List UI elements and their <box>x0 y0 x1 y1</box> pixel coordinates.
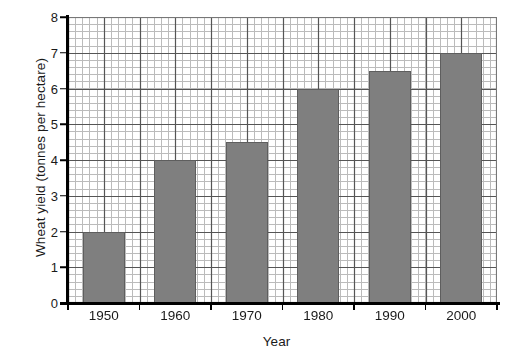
x-tick-label: 2000 <box>431 308 491 323</box>
x-tick-label: 1990 <box>360 308 420 323</box>
x-axis-title: Year <box>56 334 497 349</box>
y-tick-label: 4 <box>36 153 58 168</box>
x-tick-mark <box>353 303 355 310</box>
bar-1950 <box>83 232 125 304</box>
x-tick-label: 1980 <box>288 308 348 323</box>
y-tick-label: 8 <box>36 10 58 25</box>
y-tick-label: 2 <box>36 224 58 239</box>
y-tick-label: 6 <box>36 81 58 96</box>
bar-chart: Wheat yield (tonnes per hectare) 0123456… <box>0 0 521 360</box>
plot-area <box>68 17 497 303</box>
y-tick-mark <box>60 88 67 90</box>
x-tick-mark <box>425 303 427 310</box>
bar-1990 <box>369 71 411 303</box>
x-tick-mark <box>67 303 69 310</box>
bar-1980 <box>297 89 339 304</box>
y-tick-label: 5 <box>36 117 58 132</box>
bar-2000 <box>440 53 482 303</box>
x-tick-mark <box>139 303 141 310</box>
y-tick-label: 1 <box>36 260 58 275</box>
y-tick-label: 3 <box>36 188 58 203</box>
x-tick-mark <box>282 303 284 310</box>
x-tick-label: 1950 <box>74 308 134 323</box>
y-axis-tick-labels: 012345678 <box>36 0 58 360</box>
y-tick-label: 0 <box>36 296 58 311</box>
y-tick-mark <box>60 302 67 304</box>
y-tick-mark <box>60 52 67 54</box>
x-tick-label: 1970 <box>217 308 277 323</box>
bars-layer <box>68 17 497 303</box>
y-tick-mark <box>60 159 67 161</box>
x-tick-mark <box>496 303 498 310</box>
bar-1970 <box>226 142 268 303</box>
x-axis-line <box>60 302 500 305</box>
x-tick-label: 1960 <box>145 308 205 323</box>
y-tick-mark <box>60 267 67 269</box>
y-tick-mark <box>60 16 67 18</box>
bar-1960 <box>154 160 196 303</box>
y-tick-mark <box>60 195 67 197</box>
x-tick-mark <box>210 303 212 310</box>
y-tick-mark <box>60 231 67 233</box>
y-tick-label: 7 <box>36 45 58 60</box>
y-tick-mark <box>60 124 67 126</box>
